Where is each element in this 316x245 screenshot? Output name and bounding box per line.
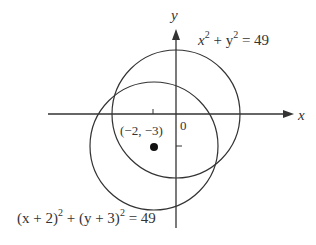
coordinate-diagram: y x 0 (−2, −3) x2 + y2 = 49 (x + 2)2 + (… (0, 0, 316, 245)
y-axis-arrow-icon (172, 29, 180, 40)
x-axis-label: x (297, 107, 305, 123)
equation-circle-origin: x2 + y2 = 49 (197, 29, 269, 48)
point-label: (−2, −3) (120, 123, 163, 138)
y-axis-label: y (169, 7, 178, 23)
center-point (150, 143, 158, 151)
equation-circle-shifted: (x + 2)2 + (y + 3)2 = 49 (17, 207, 156, 227)
x-axis-arrow-icon (283, 110, 294, 118)
origin-label: 0 (180, 118, 187, 133)
